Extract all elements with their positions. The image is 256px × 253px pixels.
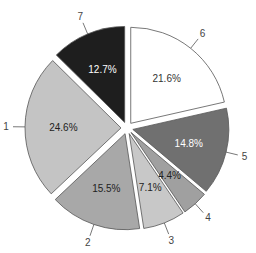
slice-category-label: 3 [168, 235, 174, 246]
slice-percent-label: 4.4% [158, 170, 181, 181]
slice-category-label: 5 [242, 151, 248, 162]
slice-percent-label: 21.6% [153, 73, 181, 84]
leader-line [90, 224, 94, 235]
leader-line [226, 152, 238, 155]
pie-slice-6: 21.6%6 [131, 27, 225, 123]
slice-percent-label: 14.8% [175, 138, 203, 149]
slice-percent-label: 24.6% [49, 122, 77, 133]
slice-category-label: 7 [78, 11, 84, 22]
slice-category-label: 4 [205, 212, 211, 223]
slice-percent-label: 7.1% [139, 182, 162, 193]
slice-category-label: 2 [85, 237, 91, 248]
leader-line [83, 23, 88, 34]
leader-line [191, 39, 198, 48]
pie-chart: 21.6%614.8%54.4%47.1%315.5%224.6%112.7%7 [0, 0, 256, 253]
slice-percent-label: 12.7% [88, 64, 116, 75]
leader-line [195, 204, 203, 213]
leader-line [164, 223, 168, 234]
slice-category-label: 6 [200, 28, 206, 39]
slice-category-label: 1 [3, 121, 9, 132]
slice-percent-label: 15.5% [92, 183, 120, 194]
